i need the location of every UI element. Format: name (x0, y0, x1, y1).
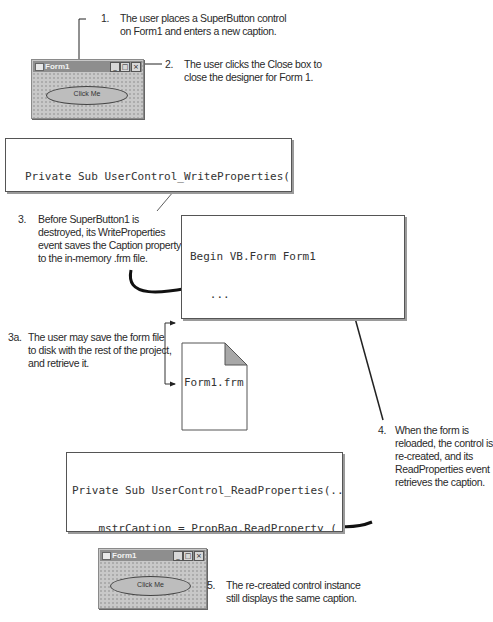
step-text-line: to the in-memory .frm file. (38, 252, 148, 265)
form-icon (102, 552, 111, 560)
form1-titlebar[interactable]: Form1 _ □ × (100, 550, 205, 561)
step-text-line: to disk with the rest of the project, (28, 344, 171, 357)
button-caption: Click Me (111, 581, 190, 588)
step-number: 3a. (8, 331, 22, 344)
maximize-icon[interactable]: □ (183, 551, 193, 561)
close-icon[interactable]: × (194, 551, 204, 561)
step-number: 1. (101, 12, 109, 25)
step-text-line: still displays the same caption. (226, 592, 357, 605)
form-title: Form1 (112, 550, 136, 561)
step-number: 4. (378, 424, 386, 437)
form-icon (35, 63, 44, 71)
minimize-icon[interactable]: _ (110, 62, 120, 72)
step-text-line: Before SuperButton1 is (38, 213, 139, 226)
code-line: ... (190, 288, 405, 298)
step-number: 2. (165, 58, 173, 71)
step-text-line: retrieves the caption. (395, 476, 485, 489)
read-properties-code: Private Sub UserControl_ReadProperties(.… (66, 452, 343, 532)
step-text-line: on Form1 and enters a new caption. (120, 25, 276, 38)
step-text-line: When the form is (395, 424, 469, 437)
code-line: mstrCaption = PropBag.ReadProperty ( (72, 522, 343, 532)
code-line: Private Sub UserControl_WriteProperties(… (25, 170, 292, 183)
step-number: 5. (207, 579, 215, 592)
step-text-line: ReadProperties event (395, 463, 490, 476)
minimize-icon[interactable]: _ (173, 551, 183, 561)
form1-titlebar[interactable]: Form1 _ □ × (33, 61, 142, 72)
step-text-line: re-created, and its (395, 450, 473, 463)
step-text-line: event saves the Caption property (38, 239, 181, 252)
step-text-line: and retrieve it. (28, 357, 89, 370)
close-icon[interactable]: × (131, 62, 141, 72)
code-line: Private Sub UserControl_ReadProperties(.… (72, 484, 343, 496)
maximize-icon[interactable]: □ (120, 62, 130, 72)
step-text-line: The user may save the form file (28, 331, 164, 344)
code-line: Begin VB.Form Form1 (190, 250, 405, 262)
step-text-line: The user places a SuperButton control (120, 12, 286, 25)
write-properties-code: Private Sub UserControl_WriteProperties(… (5, 138, 292, 192)
step-text-line: reloaded, the control is (395, 437, 493, 450)
frm-file-contents-code: Begin VB.Form Form1 ... Begin SuperButto… (181, 215, 405, 319)
superbutton-control[interactable]: Click Me (110, 576, 191, 596)
step-number: 3. (18, 213, 26, 226)
superbutton-control[interactable]: Click Me (46, 86, 128, 105)
form1-runtime-window[interactable]: Form1 _ □ × Click Me (98, 548, 207, 609)
form-title: Form1 (45, 61, 69, 72)
step-text-line: destroyed, its WriteProperties (38, 226, 165, 239)
file-name-label: Form1.frm (184, 376, 244, 389)
step-text-line: close the designer for Form 1. (184, 71, 313, 84)
step-text-line: The re-created control instance (226, 579, 360, 592)
button-caption: Click Me (47, 90, 127, 97)
form1-designer-window[interactable]: Form1 _ □ × Click Me (31, 59, 144, 119)
step-text-line: The user clicks the Close box to (184, 58, 322, 71)
